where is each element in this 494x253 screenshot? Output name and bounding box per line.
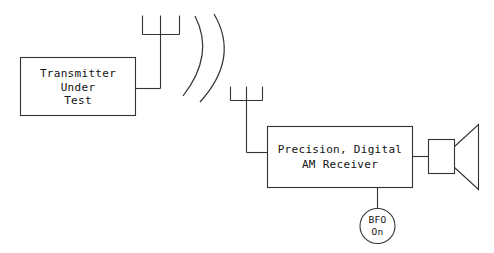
transmitter-label-line1: Transmitter xyxy=(40,67,116,80)
receiver-label-line1: Precision, Digital xyxy=(278,143,403,156)
diagram-canvas: Transmitter Under Test Precision, Digita… xyxy=(0,0,494,253)
radio-wave-arcs xyxy=(183,14,224,102)
transmitter-label-line2: Under xyxy=(61,81,96,94)
transmitter-label-line3: Test xyxy=(64,94,92,107)
bfo-label-line2: On xyxy=(372,226,384,237)
bfo-label-line1: BFO xyxy=(369,214,387,225)
radio-wave-arc-outer xyxy=(200,14,224,102)
receive-antenna xyxy=(231,87,268,153)
precision-digital-am-receiver-box xyxy=(268,127,413,188)
block-diagram: Transmitter Under Test Precision, Digita… xyxy=(0,0,494,253)
receiver-label-line2: AM Receiver xyxy=(302,158,378,171)
transmit-antenna xyxy=(136,16,180,89)
radio-wave-arc-inner xyxy=(183,16,203,96)
speaker-cone xyxy=(455,125,479,190)
speaker-driver-box xyxy=(429,140,455,174)
